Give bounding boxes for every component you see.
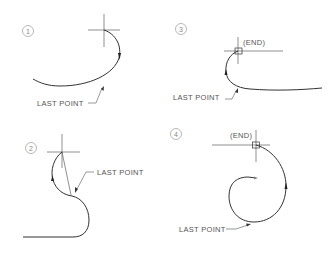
spiral-curve <box>229 145 286 222</box>
panel-number-badge: 3 <box>176 24 187 35</box>
s-curve <box>23 152 89 237</box>
direction-arrow-icon <box>225 69 228 75</box>
panel-number-badge: 2 <box>26 143 37 154</box>
last-point-label: LAST POINT <box>179 225 226 234</box>
direction-arrow-icon <box>51 175 54 181</box>
leader-arrow-icon <box>246 224 251 227</box>
panel-number-badge: 4 <box>171 129 182 140</box>
panel-1: 1 LAST POINT <box>23 14 122 108</box>
crosshair-icon <box>47 134 80 168</box>
last-point-label: LAST POINT <box>173 93 220 102</box>
leader-arrow-icon <box>101 86 104 91</box>
end-label: (END) <box>230 131 253 140</box>
end-label: (END) <box>243 38 266 47</box>
panel-4: 4 (END) LAST POINT <box>171 129 288 235</box>
leader-line <box>225 91 236 99</box>
svg-text:1: 1 <box>26 28 30 35</box>
arc-curve <box>226 51 322 90</box>
arc-curve <box>33 30 120 86</box>
leader-line <box>77 172 94 189</box>
panel-number-badge: 1 <box>23 26 34 37</box>
svg-text:3: 3 <box>179 26 183 33</box>
leader-line <box>88 88 102 103</box>
diagram-canvas: 1 LAST POINT 3 (END) LAST POINT <box>0 0 335 258</box>
direction-arrow-icon <box>285 182 288 189</box>
last-point-label: LAST POINT <box>37 99 84 108</box>
panel-3: 3 (END) LAST POINT <box>173 24 322 103</box>
last-point-label: LAST POINT <box>97 168 144 177</box>
radial-line <box>62 152 71 195</box>
spiral-end-arrow-icon <box>254 177 258 180</box>
svg-text:2: 2 <box>29 145 33 152</box>
svg-text:4: 4 <box>174 131 178 138</box>
leader-line <box>226 225 248 229</box>
panel-2: 2 LAST POINT <box>23 134 144 237</box>
